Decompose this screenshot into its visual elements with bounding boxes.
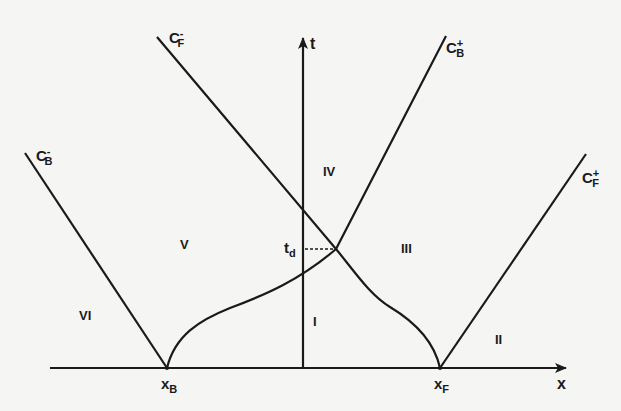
region-iii-label: III — [401, 242, 412, 255]
x-axis-label: x — [557, 376, 566, 392]
cf-plus-line — [440, 154, 586, 368]
region-iv-label: IV — [323, 165, 335, 178]
region-ii-label: II — [495, 333, 502, 346]
region-v-label: V — [180, 238, 189, 251]
xf-label: xF — [434, 376, 449, 395]
t-axis-label: t — [310, 36, 315, 52]
cb-plus-label: C+B — [446, 38, 464, 59]
xf-point — [438, 366, 442, 370]
diagram-lines — [0, 0, 621, 411]
characteristics-diagram: t x xB xF td C-B C-F C+B C+F I II III IV… — [0, 0, 621, 411]
region-vi-label: VI — [79, 309, 91, 322]
xb-point — [165, 366, 169, 370]
cf-minus-label: C-F — [169, 28, 184, 49]
cb-minus-label: C-B — [36, 146, 52, 167]
cf-minus-curve — [157, 37, 440, 368]
cb-plus-curve — [167, 36, 446, 368]
region-i-label: I — [313, 315, 317, 328]
xb-label: xB — [161, 376, 177, 395]
cb-minus-line — [25, 153, 167, 368]
cf-plus-label: C+F — [582, 168, 599, 189]
td-label: td — [284, 240, 296, 259]
